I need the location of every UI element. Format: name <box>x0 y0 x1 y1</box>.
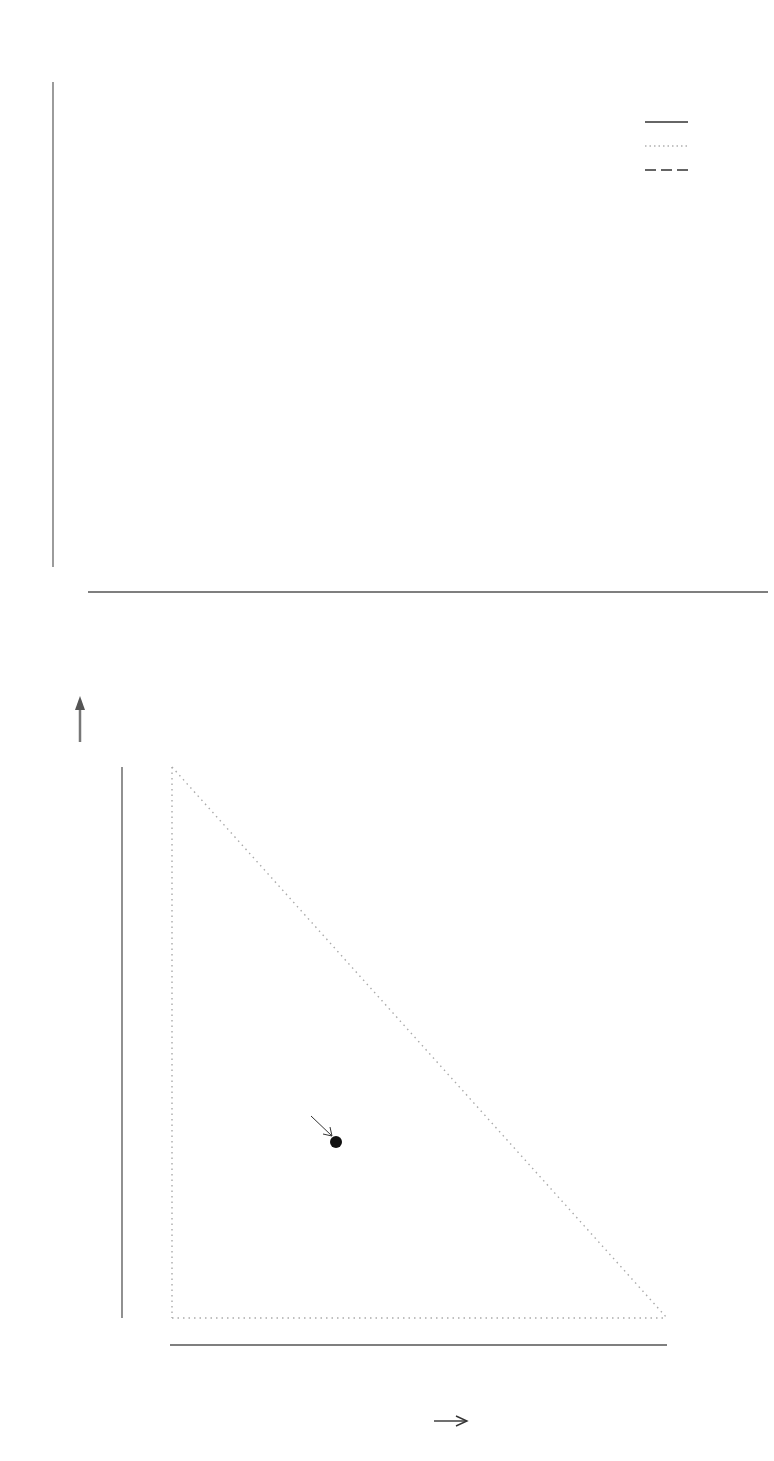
x-direction-arrow-icon <box>434 1416 467 1426</box>
equal-energy-white-point <box>311 1116 342 1148</box>
top-chart-color-matching-functions <box>53 82 768 592</box>
bottom-chart-chromaticity-diagram <box>75 696 667 1426</box>
xyz-primaries-triangle <box>172 767 667 1318</box>
figure <box>0 0 774 1461</box>
arrow-icon <box>311 1116 332 1136</box>
x-axis-title <box>434 1416 467 1426</box>
legend <box>645 122 688 170</box>
y-direction-arrow-icon <box>75 696 85 742</box>
